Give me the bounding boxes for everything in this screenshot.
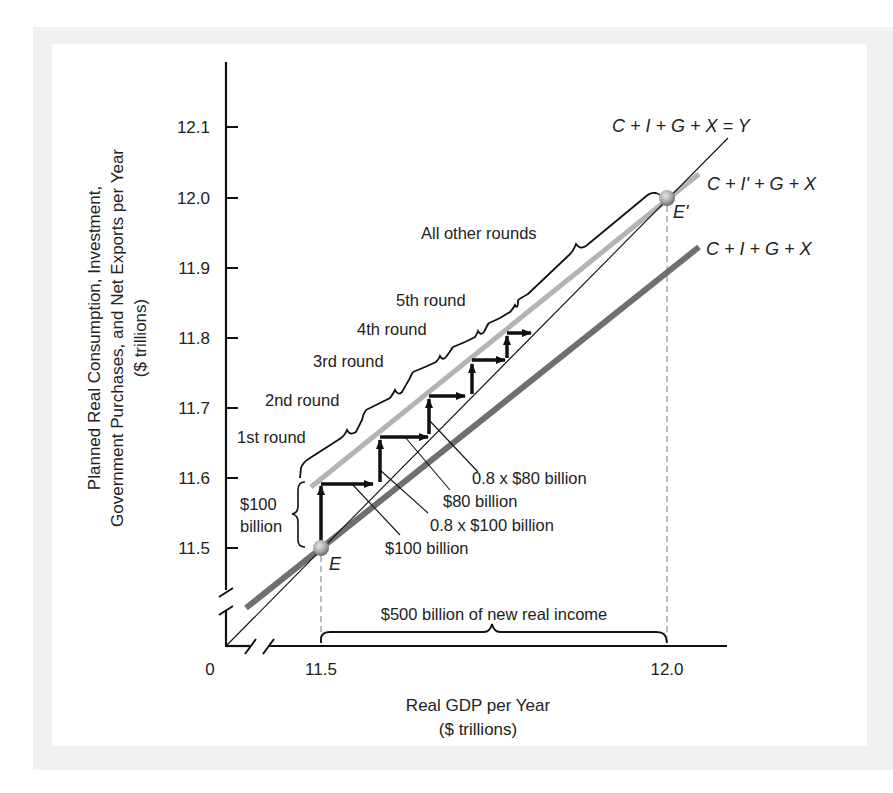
label-2nd-round: 2nd round bbox=[265, 391, 339, 409]
brace-100-billion bbox=[292, 482, 305, 547]
label-100-billion-brace: $100 bbox=[240, 495, 277, 513]
label-0-8-x-80-billion: 0.8 x $80 billion bbox=[472, 469, 587, 487]
y-tick-label: 11.9 bbox=[178, 259, 210, 278]
x-tick-label: 12.0 bbox=[650, 660, 683, 679]
label-new-ae-line: C + I' + G + X bbox=[707, 174, 817, 194]
label-100-billion-brace-2: billion bbox=[240, 517, 282, 535]
label-all-other-rounds: All other rounds bbox=[421, 224, 537, 242]
y-tick-label: 11.8 bbox=[178, 329, 210, 348]
label-4th-round: 4th round bbox=[357, 320, 427, 338]
x-axis-units: ($ trillions) bbox=[439, 720, 517, 739]
label-3rd-round: 3rd round bbox=[313, 352, 384, 370]
label-100-billion-horizontal: $100 billion bbox=[385, 539, 468, 557]
y-ticks bbox=[226, 127, 238, 548]
equilibrium-point-e bbox=[313, 540, 329, 556]
y-tick-label: 11.5 bbox=[178, 539, 210, 558]
svg-text:($ trillions): ($ trillions) bbox=[131, 299, 150, 377]
x-axis: 0 11.5 12.0 bbox=[205, 639, 727, 679]
y-tick-label: 11.7 bbox=[178, 399, 210, 418]
label-0-8-x-100-billion: 0.8 x $100 billion bbox=[430, 516, 554, 534]
line-old-aggregate-expenditure bbox=[246, 247, 699, 608]
label-45-degree-line: C + I + G + X = Y bbox=[612, 116, 752, 136]
label-e: E bbox=[329, 554, 342, 574]
label-80-billion: $80 billion bbox=[443, 492, 517, 510]
label-500-billion-new-income: $500 billion of new real income bbox=[381, 605, 608, 623]
y-axis: 11.5 11.6 11.7 11.8 11.9 12.0 12.1 bbox=[177, 62, 238, 647]
label-1st-round: 1st round bbox=[237, 428, 306, 446]
y-axis-title: Planned Real Consumption, Investment, Go… bbox=[85, 149, 150, 527]
x-tick-label: 11.5 bbox=[305, 660, 337, 679]
brace-500-billion bbox=[321, 624, 667, 643]
y-tick-label: 12.1 bbox=[177, 118, 210, 137]
label-e-prime: E' bbox=[673, 202, 689, 222]
x-tick-label: 0 bbox=[205, 660, 214, 679]
y-tick-label: 12.0 bbox=[177, 189, 210, 208]
label-5th-round: 5th round bbox=[396, 291, 466, 309]
svg-text:Government Purchases, and Net: Government Purchases, and Net Exports pe… bbox=[108, 149, 127, 527]
y-tick-label: 11.6 bbox=[178, 469, 210, 488]
label-old-ae-line: C + I + G + X bbox=[706, 239, 813, 259]
x-axis-title: Real GDP per Year bbox=[406, 696, 551, 715]
svg-text:Planned Real Consumption, Inve: Planned Real Consumption, Investment, bbox=[85, 186, 104, 490]
